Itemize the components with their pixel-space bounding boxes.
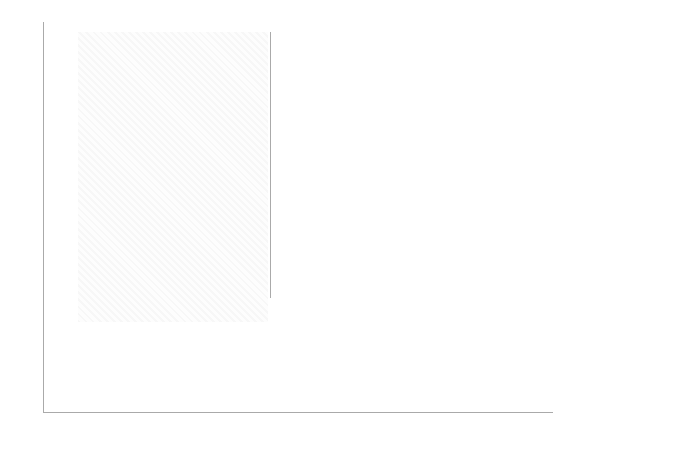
inset-y-axis-line bbox=[270, 32, 271, 298]
x-axis-line bbox=[43, 412, 553, 413]
y-axis-line bbox=[43, 22, 44, 413]
inset-chart bbox=[78, 32, 268, 322]
